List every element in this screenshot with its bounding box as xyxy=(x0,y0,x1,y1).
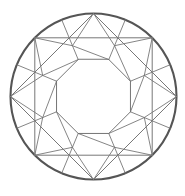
girdle-outline-circle xyxy=(11,14,177,180)
diamond-diagram-root: Round Brilliant Cut Diamond Crown view f… xyxy=(0,0,185,196)
diamond-diagram-svg: Round Brilliant Cut Diamond Crown view f… xyxy=(0,0,185,196)
